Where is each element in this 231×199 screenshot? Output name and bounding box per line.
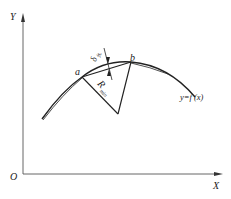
delta-label-group: δ 允 — [88, 50, 103, 63]
radius-subscript: min — [99, 88, 109, 98]
curve-label: y=f (x) — [179, 92, 204, 102]
diagram-svg: Y O X a b δ 允 R min y=f (x) — [0, 0, 231, 199]
delta-subscript: 允 — [95, 52, 103, 59]
y-axis-arrow-icon — [21, 13, 25, 22]
radius-symbol: R — [95, 77, 108, 90]
origin-label: O — [10, 171, 17, 182]
diagram-canvas: Y O X a b δ 允 R min y=f (x) — [0, 0, 231, 199]
radius-line-b — [118, 62, 131, 114]
x-axis-arrow-icon — [214, 172, 223, 176]
point-b-label: b — [130, 52, 135, 63]
point-a-label: a — [75, 66, 80, 77]
x-axis-label: X — [212, 180, 220, 191]
curve-left-overlay — [43, 78, 82, 120]
y-axis-label: Y — [10, 11, 17, 22]
radius-label-group: R min — [93, 77, 114, 98]
curve-right-overlay — [131, 63, 168, 74]
